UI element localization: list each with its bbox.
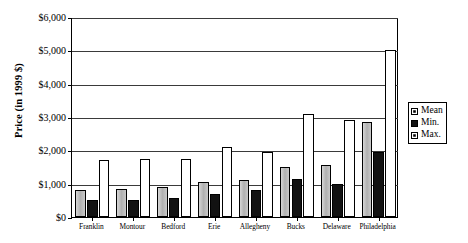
x-axis-tick-label: Philadelphia <box>357 222 398 231</box>
bar-min <box>210 194 221 217</box>
bar-mean <box>362 122 373 217</box>
bar-min <box>251 190 262 217</box>
x-axis-tick-label: Erie <box>194 222 235 231</box>
bar-mean <box>321 165 332 217</box>
x-axis-tick-label: Allegheny <box>235 222 276 231</box>
bar-min <box>128 200 139 217</box>
bar-max <box>303 114 314 217</box>
bar-mean <box>198 182 209 217</box>
y-axis-tick-label: $4,000 <box>2 80 66 90</box>
x-axis-tick-mark <box>92 217 93 221</box>
y-axis-tick-label: $0 <box>2 213 66 223</box>
legend-item: Max. <box>411 129 443 141</box>
x-axis-tick-mark <box>256 217 257 221</box>
legend-item: Min. <box>411 117 443 129</box>
bar-min <box>332 184 343 217</box>
bar-group <box>317 18 358 217</box>
bar-mean <box>116 189 127 217</box>
x-axis-tick-label: Montour <box>112 222 153 231</box>
max-swatch <box>411 132 418 139</box>
x-axis-tick-mark <box>297 217 298 221</box>
x-axis-tick-mark <box>215 217 216 221</box>
bar-mean <box>280 167 291 217</box>
y-axis-tick-label: $5,000 <box>2 46 66 56</box>
legend-item-label: Min. <box>421 118 439 128</box>
bar-max <box>385 50 396 217</box>
x-axis-tick-mark <box>174 217 175 221</box>
bar-group <box>113 18 154 217</box>
bar-group <box>154 18 195 217</box>
bar-max <box>262 152 273 217</box>
bar-mean <box>157 187 168 217</box>
chart-legend: MeanMin.Max. <box>408 102 447 144</box>
y-axis-tick-mark <box>68 218 72 219</box>
x-axis-tick-label: Franklin <box>71 222 112 231</box>
bar-max <box>222 147 233 217</box>
y-axis-tick-label: $1,000 <box>2 180 66 190</box>
bar-group <box>236 18 277 217</box>
bar-min <box>169 198 180 217</box>
bar-group <box>195 18 236 217</box>
bar-min <box>373 152 384 217</box>
bar-max <box>99 160 110 217</box>
y-axis-tick-label: $6,000 <box>2 13 66 23</box>
legend-item-label: Max. <box>421 130 441 140</box>
y-axis-tick-label: $2,000 <box>2 146 66 156</box>
bar-min <box>292 179 303 217</box>
x-axis-tick-label: Bucks <box>275 222 316 231</box>
bar-group <box>72 18 113 217</box>
x-axis-tick-mark <box>133 217 134 221</box>
bar-max <box>140 159 151 217</box>
y-axis-tick-label: $3,000 <box>2 113 66 123</box>
bar-min <box>87 200 98 217</box>
bar-chart: Price (in 1999 $) $0$1,000$2,000$3,000$4… <box>0 0 468 243</box>
bar-max <box>181 159 192 217</box>
plot-area <box>71 18 398 218</box>
legend-item: Mean <box>411 105 443 117</box>
bar-group <box>358 18 399 217</box>
bar-group <box>276 18 317 217</box>
x-axis-tick-mark <box>338 217 339 221</box>
bar-mean <box>239 180 250 217</box>
x-axis-tick-label: Bedford <box>153 222 194 231</box>
bar-mean <box>75 190 86 217</box>
mean-swatch <box>411 108 418 115</box>
min-swatch <box>411 120 418 127</box>
x-axis-tick-label: Delaware <box>316 222 357 231</box>
bar-max <box>344 120 355 217</box>
legend-item-label: Mean <box>421 106 443 116</box>
x-axis-tick-mark <box>379 217 380 221</box>
